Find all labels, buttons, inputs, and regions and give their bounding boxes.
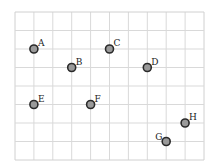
point-label: H xyxy=(189,112,197,122)
point-c: C xyxy=(106,38,121,53)
points: ABCDEFGH xyxy=(30,38,197,146)
point-marker-icon xyxy=(143,64,151,72)
point-label: B xyxy=(76,57,83,67)
point-label: A xyxy=(37,38,45,48)
point-h: H xyxy=(181,112,197,127)
point-marker-icon xyxy=(181,119,189,127)
point-marker-icon xyxy=(30,101,38,109)
point-label: E xyxy=(38,94,45,104)
grid-lines xyxy=(15,12,204,160)
grid-diagram: ABCDEFGH xyxy=(0,0,213,164)
point-a: A xyxy=(30,38,45,53)
point-b: B xyxy=(68,57,83,72)
point-label: D xyxy=(151,57,158,67)
point-marker-icon xyxy=(87,101,95,109)
point-f: F xyxy=(87,94,101,109)
point-marker-icon xyxy=(30,45,38,53)
point-label: G xyxy=(155,132,162,142)
point-marker-icon xyxy=(106,45,114,53)
point-label: C xyxy=(114,38,121,48)
point-marker-icon xyxy=(68,64,76,72)
point-e: E xyxy=(30,94,45,109)
point-g: G xyxy=(155,132,170,146)
point-marker-icon xyxy=(162,138,170,146)
point-d: D xyxy=(143,57,158,72)
point-label: F xyxy=(95,94,101,104)
